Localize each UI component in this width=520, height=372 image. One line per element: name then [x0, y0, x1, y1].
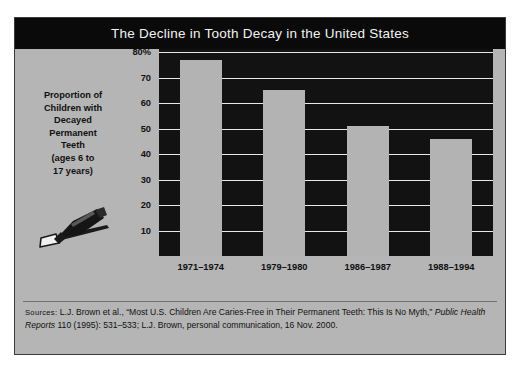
x-tick-1979-1980: 1979–1980: [261, 262, 308, 272]
y-axis-caption-line-3: Decayed: [21, 114, 125, 127]
y-tick-60: 60: [141, 98, 151, 108]
x-tick-1986-1987: 1986–1987: [344, 262, 391, 272]
bar-1986-1987: [347, 126, 389, 256]
y-axis-caption-line-6: (ages 6 to: [21, 152, 125, 165]
figure-panel: The Decline in Tooth Decay in the United…: [14, 17, 506, 355]
bar-1979-1980: [263, 90, 305, 256]
plot-area: [159, 49, 493, 256]
chart-body: Proportion of Children with Decayed Perm…: [15, 49, 505, 301]
bar-1988-1994: [430, 139, 472, 256]
y-tick-20: 20: [141, 200, 151, 210]
y-tick-80: 80%: [132, 47, 151, 57]
source-text-before: L.J. Brown et al., “Most U.S. Children A…: [57, 307, 434, 317]
source-label: Sources:: [25, 308, 57, 317]
y-tick-70: 70: [141, 73, 151, 83]
y-tick-30: 30: [141, 175, 151, 185]
source-text-after: 110 (1995): 531–533; L.J. Brown, persona…: [55, 320, 338, 330]
plot-wrapper: 80% 70 60 50 40 30 20 10: [128, 49, 493, 301]
x-axis: 1971–1974 1979–1980 1986–1987 1988–1994: [159, 259, 493, 281]
y-tick-10: 10: [141, 226, 151, 236]
y-tick-50: 50: [141, 124, 151, 134]
source-note: Sources: L.J. Brown et al., “Most U.S. C…: [15, 306, 505, 332]
y-axis-caption-line-4: Permanent: [21, 127, 125, 140]
toothbrush-with-toothpaste-icon: [37, 207, 113, 253]
x-tick-1988-1994: 1988–1994: [428, 262, 475, 272]
y-axis-caption: Proportion of Children with Decayed Perm…: [21, 89, 125, 177]
bar-1971-1974: [180, 60, 222, 256]
page-title: The Decline in Tooth Decay in the United…: [111, 26, 409, 41]
y-axis-caption-line-2: Children with: [21, 102, 125, 115]
gridline-80: [159, 52, 493, 53]
y-axis-caption-line-1: Proportion of: [21, 89, 125, 102]
x-tick-1971-1974: 1971–1974: [177, 262, 224, 272]
y-axis-caption-line-7: 17 years): [21, 165, 125, 178]
y-axis: 80% 70 60 50 40 30 20 10: [128, 49, 154, 256]
y-axis-caption-line-5: Teeth: [21, 139, 125, 152]
chart-title-bar: The Decline in Tooth Decay in the United…: [15, 18, 505, 49]
source-divider: [23, 301, 497, 302]
y-tick-40: 40: [141, 149, 151, 159]
